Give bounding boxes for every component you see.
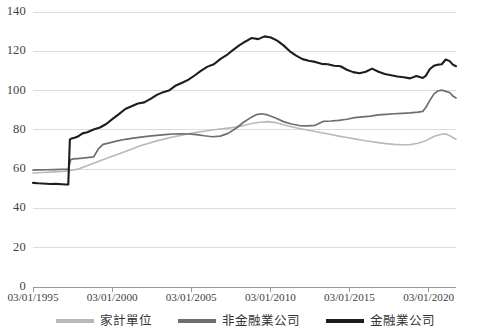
legend-label-nonfinancial-corporations: 非金融業公司	[222, 315, 300, 328]
y-tick-label: 60	[0, 161, 26, 176]
legend-item-financial-corporations[interactable]: 金融業公司	[326, 315, 435, 328]
legend-label-financial-corporations: 金融業公司	[370, 315, 435, 328]
y-tick-label: 100	[0, 83, 26, 98]
legend-swatch-financial-corporations	[326, 319, 364, 323]
gridlines	[33, 12, 456, 287]
y-tick-label: 80	[0, 122, 26, 137]
x-tick-label: 03/01/1995	[0, 291, 75, 303]
y-tick-label: 120	[0, 43, 26, 58]
chart-plot-area	[0, 0, 490, 333]
legend-label-households: 家計單位	[100, 315, 152, 328]
y-tick-label: 40	[0, 200, 26, 215]
x-tick-label: 03/01/2010	[228, 291, 312, 303]
legend-item-nonfinancial-corporations[interactable]: 非金融業公司	[178, 315, 300, 328]
y-tick-label: 140	[0, 4, 26, 19]
x-tick-label: 03/01/2015	[307, 291, 391, 303]
x-tick-label: 03/01/2005	[149, 291, 233, 303]
y-tick-label: 20	[0, 240, 26, 255]
chart-container: 140120100806040200 03/01/199503/01/20000…	[0, 0, 490, 333]
legend-item-households[interactable]: 家計單位	[56, 315, 152, 328]
legend-swatch-households	[56, 319, 94, 323]
legend-swatch-nonfinancial-corporations	[178, 319, 216, 323]
series-lines	[33, 36, 456, 184]
x-tick-label: 03/01/2020	[387, 291, 471, 303]
x-tick-label: 03/01/2000	[70, 291, 154, 303]
chart-legend: 家計單位 非金融業公司 金融業公司	[0, 309, 490, 333]
